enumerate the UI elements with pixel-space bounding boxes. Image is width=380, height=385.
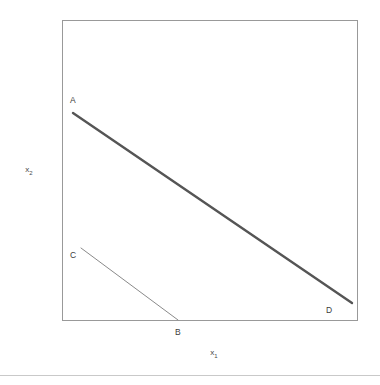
x-axis-title: x1 xyxy=(203,349,225,359)
y-axis-title-subscript: 2 xyxy=(29,170,33,176)
point-label-b: B xyxy=(175,328,181,337)
point-label-c: C xyxy=(70,251,76,260)
point-label-a: A xyxy=(70,96,76,105)
y-axis-title: x2 xyxy=(18,166,40,176)
footer-divider xyxy=(0,375,380,376)
point-label-d: D xyxy=(326,306,332,315)
figure-canvas: x2 x1 A B C D xyxy=(0,0,380,385)
plot-area xyxy=(0,0,380,385)
x-axis-title-subscript: 1 xyxy=(214,353,218,359)
